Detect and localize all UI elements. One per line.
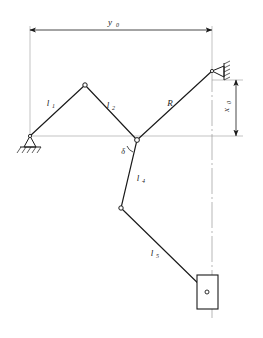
linkage-diagram: y 0 x 0 δ <box>0 0 263 338</box>
delta-label: δ <box>121 147 125 156</box>
delta-angle-marker: δ <box>121 146 133 156</box>
link-label-l5: l <box>151 248 154 258</box>
revolute-joints <box>83 83 140 210</box>
link-R <box>137 71 212 140</box>
slider-block <box>197 275 218 309</box>
link-label-l5-subscript: 5 <box>156 253 159 259</box>
dimension-label-x0: x <box>221 108 231 113</box>
link-l2 <box>85 85 137 140</box>
diagram-canvas: y 0 x 0 δ <box>0 0 263 338</box>
dimension-label-x0-subscript: 0 <box>226 101 232 104</box>
link-label-l4: l <box>137 173 140 183</box>
link-label-l2: l <box>107 100 110 110</box>
link-l1 <box>30 85 85 136</box>
joint-slider <box>205 290 209 294</box>
hatching-left <box>17 147 41 153</box>
link-label-l4-subscript: 4 <box>142 178 145 184</box>
joint-upper-right-pivot <box>210 69 213 72</box>
link-label-l1-subscript: 1 <box>52 103 55 109</box>
ground-pivot-left <box>17 134 41 153</box>
link-labels: l 1 l 2 R l 4 l 5 <box>47 98 174 259</box>
hatching-right <box>224 61 230 80</box>
joint-center <box>135 138 140 143</box>
joint-lower <box>119 206 123 210</box>
link-label-R: R <box>166 98 173 108</box>
dimension-y0: y 0 <box>30 17 212 30</box>
joint-ground-pivot <box>28 134 31 137</box>
pivot-support-upper-right <box>210 61 230 80</box>
link-l5 <box>121 208 207 292</box>
dimension-x0: x 0 <box>221 80 236 136</box>
linkage-bars <box>30 71 212 292</box>
dimension-label-y0-subscript: 0 <box>116 22 119 28</box>
joint-apex <box>83 83 87 87</box>
dimension-label-y0: y <box>107 17 112 27</box>
link-label-l1: l <box>47 98 50 108</box>
extension-lines <box>30 26 243 138</box>
link-label-l2-subscript: 2 <box>112 105 115 111</box>
delta-arc <box>127 146 133 152</box>
